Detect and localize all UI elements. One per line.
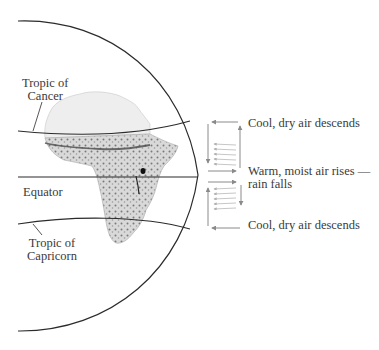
equator-label: Equator: [23, 186, 63, 199]
upper-inner-flow-4: [214, 159, 236, 160]
upper-descend-label: Cool, dry air descends: [248, 117, 360, 130]
upper-inner-flow-5: [214, 164, 236, 165]
tropic-of-capricorn-line: [18, 218, 190, 229]
rise-label-line2: rain falls: [248, 178, 292, 191]
lower-inner-flow-3: [214, 198, 236, 199]
capricorn-leader-line: [33, 224, 42, 235]
africa-continent: [45, 92, 178, 243]
tropic-of-cancer-label-line2: Cancer: [22, 90, 68, 103]
upper-inner-flow-2: [214, 149, 236, 150]
tropic-of-capricorn-label: Tropic of Capricorn: [27, 237, 77, 263]
africa-south: [45, 134, 178, 243]
upper-inner-flow-1: [214, 144, 236, 145]
lower-inner-flow-5: [214, 208, 236, 209]
cancer-leader-line: [33, 102, 42, 131]
lower-circulation-cell: [208, 182, 241, 228]
tropic-of-cancer-label: Tropic of Cancer: [22, 77, 68, 103]
lower-inner-flow-1: [214, 188, 236, 189]
tropic-of-capricorn-label-line2: Capricorn: [27, 250, 77, 263]
lake-victoria: [141, 168, 146, 174]
lower-inner-flow-2: [214, 193, 236, 194]
upper-circulation-cell: [208, 122, 240, 171]
lower-inner-flow-4: [214, 203, 236, 204]
upper-inner-flow-3: [214, 154, 236, 155]
lower-descend-label: Cool, dry air descends: [248, 219, 360, 232]
